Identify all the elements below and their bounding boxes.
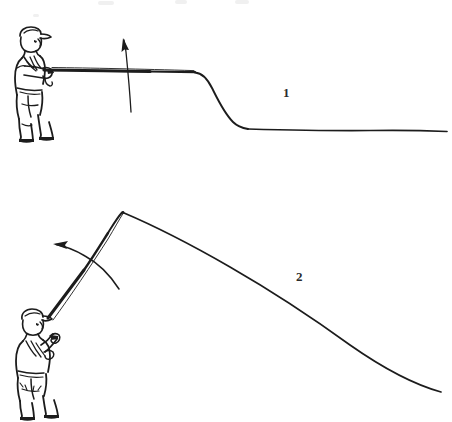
scan-artifacts [33,0,249,17]
fishing-line-2 [124,213,442,392]
panel-2-number: 2 [296,269,303,285]
panel-1-group [15,27,447,142]
angler-figure-1 [15,27,54,142]
fishing-line-1 [195,73,447,132]
fishing-rod-1 [44,68,195,73]
illustration-canvas [0,0,452,422]
fishing-rod-2 [48,211,124,320]
angler-figure-2 [16,309,60,420]
panel-1-number: 1 [283,85,290,101]
motion-arrow-up [122,38,132,112]
panel-2-group [16,211,441,420]
figure-root: 1 2 [0,0,452,422]
